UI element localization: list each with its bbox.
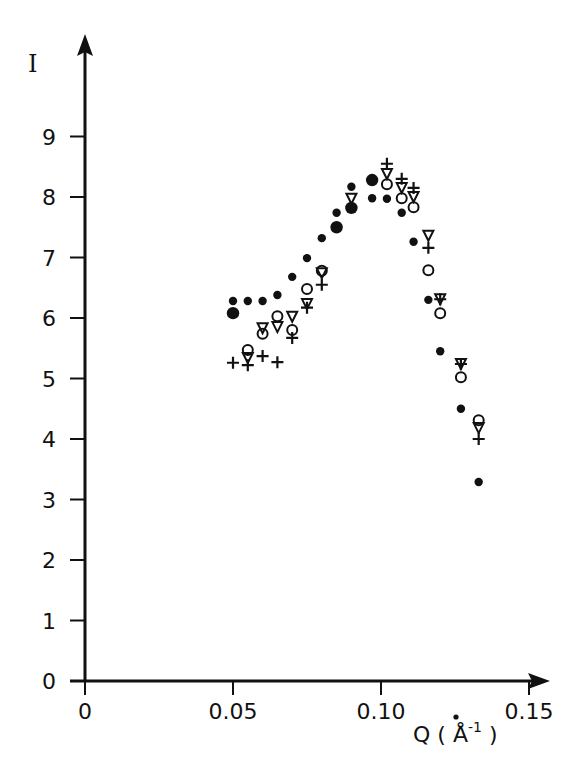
y-tick-label: 1: [42, 609, 56, 634]
data-point: [474, 478, 482, 486]
series-open-triangle-down: [243, 169, 484, 433]
data-point: [227, 307, 239, 319]
data-point: [435, 308, 445, 318]
series-open-circle: [243, 179, 484, 425]
y-tick-label: 4: [42, 427, 56, 452]
data-point: [423, 265, 433, 275]
data-point: [382, 169, 392, 179]
data-point: [332, 209, 340, 217]
data-point: [257, 350, 269, 362]
data-point: [272, 311, 282, 321]
data-point: [346, 194, 356, 204]
y-tick-label: 8: [42, 185, 56, 210]
y-tick-label: 7: [42, 246, 56, 271]
data-point: [227, 357, 239, 369]
data-point: [383, 195, 391, 203]
data-point: [368, 194, 376, 202]
data-point: [366, 174, 378, 186]
data-point: [302, 284, 312, 294]
y-tick-label: 0: [42, 669, 56, 694]
data-point: [318, 234, 326, 242]
data-point: [229, 297, 237, 305]
data-point: [301, 302, 313, 314]
y-tick-label: 2: [42, 548, 56, 573]
y-tick-label: 6: [42, 306, 56, 331]
y-tick-label: 9: [42, 125, 56, 150]
data-point: [347, 183, 355, 191]
y-axis: 0123456789 I: [28, 34, 93, 694]
data-point: [381, 158, 393, 170]
y-tick-label: 3: [42, 488, 56, 513]
data-points: [227, 158, 485, 486]
x-tick-label: 0.10: [357, 699, 406, 724]
data-point: [288, 273, 296, 281]
x-axis-title: Q ( Å-1 ): [413, 719, 497, 747]
data-point: [330, 221, 342, 233]
data-point: [316, 279, 328, 291]
data-point: [457, 405, 465, 413]
x-tick-label: 0.15: [505, 699, 554, 724]
data-point: [409, 238, 417, 246]
x-tick-label: 0.05: [209, 699, 258, 724]
data-point: [242, 359, 254, 371]
data-point: [422, 242, 434, 254]
data-point: [423, 231, 433, 241]
x-tick-label: 0: [78, 699, 92, 724]
data-point: [436, 347, 444, 355]
data-point: [398, 209, 406, 217]
data-point: [424, 296, 432, 304]
angstrom-ring-icon: [453, 714, 458, 719]
data-point: [287, 312, 297, 322]
y-axis-title: I: [28, 50, 37, 78]
data-point: [273, 291, 281, 299]
data-point: [272, 322, 282, 332]
data-point: [244, 297, 252, 305]
data-point: [258, 297, 266, 305]
data-point: [303, 254, 311, 262]
x-axis: 00.050.100.15 Q ( Å-1 ): [70, 673, 553, 747]
data-point: [271, 356, 283, 368]
scatter-plot: 0123456789 I 00.050.100.15 Q ( Å-1 ): [0, 0, 576, 771]
data-point: [473, 433, 485, 445]
data-point: [456, 372, 466, 382]
y-tick-label: 5: [42, 367, 56, 392]
